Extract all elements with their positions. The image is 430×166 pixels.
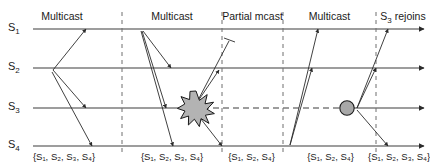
- message-arrow-s1-to-s4: [141, 31, 173, 146]
- message-group-multicast-1: [52, 29, 92, 146]
- message-group-multicast-4: [290, 29, 318, 145]
- phase-label-s3-rejoins-text: S3 rejoins: [380, 10, 425, 22]
- rejoin-circle-icon: [340, 101, 354, 115]
- delivery-set-2: {S₁, S₂, S₃, S₄}: [122, 152, 222, 162]
- message-arrow-s4-to-s1: [290, 29, 318, 145]
- crash-star-icon: [177, 91, 214, 127]
- message-arrow-s3-to-s2: [196, 70, 219, 104]
- message-arrow-s2-to-s4: [52, 72, 92, 146]
- message-arrow-s1-to-s2: [143, 31, 171, 68]
- delivery-set-3: {S₁, S₂, S₄}: [224, 152, 279, 162]
- phase-label-s3-rejoins-sub: 3: [387, 16, 391, 25]
- process-label-s1-sub: 1: [15, 27, 19, 36]
- timeline-canvas: [0, 0, 430, 166]
- message-lost-terminator: [224, 38, 235, 42]
- delivery-set-4: {S₁, S₂, S₄}: [294, 152, 367, 162]
- message-group-rejoin-multicast: [357, 29, 388, 146]
- multicast-timeline-figure: Multicast Multicast Partial mcast Multic…: [0, 0, 430, 166]
- delivery-set-5: {S₁, S₂, S₃, S₄}: [368, 152, 430, 162]
- delivery-set-1: {S₁, S₂, S₃, S₄}: [10, 152, 118, 162]
- process-label-s2-sub: 2: [15, 66, 19, 75]
- message-arrow-rejoin-to-s2: [357, 68, 376, 108]
- message-arrow-s1-to-s3: [142, 31, 166, 108]
- message-arrow-s2-to-s1: [53, 29, 86, 70]
- message-arrow-s4-to-s2: [290, 68, 312, 145]
- phase-label-multicast-1: Multicast: [0, 11, 124, 22]
- message-arrow-s2-to-s3: [53, 70, 86, 108]
- phase-label-multicast-4: Multicast: [283, 11, 376, 22]
- process-label-s2: S2: [8, 61, 20, 75]
- process-label-s3: S3: [8, 101, 20, 115]
- message-group-partial-multicast: [196, 38, 235, 146]
- phase-label-partial-mcast: Partial mcast: [222, 11, 283, 22]
- process-label-s1: S1: [8, 22, 20, 36]
- message-arrow-s3-to-s1-lost: [196, 41, 229, 104]
- message-group-multicast-2: [141, 31, 173, 146]
- process-label-s3-sub: 3: [15, 106, 19, 115]
- phase-label-multicast-2: Multicast: [122, 11, 222, 22]
- phase-label-s3-rejoins: S3 rejoins: [376, 11, 430, 25]
- phase-label-partial-mcast-text: Partial mcast: [222, 10, 283, 22]
- message-arrow-rejoin-to-s4: [357, 110, 388, 146]
